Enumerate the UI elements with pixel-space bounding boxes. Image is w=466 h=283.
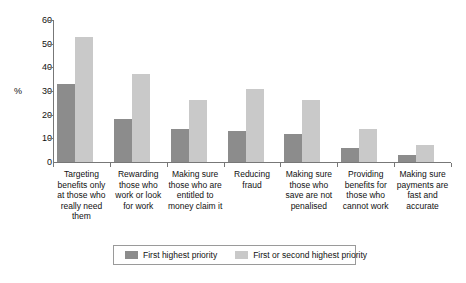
bar-group	[53, 20, 110, 162]
y-axis-tick-mark	[48, 44, 53, 45]
bar-0-3	[228, 131, 246, 162]
y-axis-title: %	[14, 86, 22, 96]
bar-1-2	[189, 100, 207, 162]
legend-swatch-0	[125, 251, 138, 259]
y-axis-tick-mark	[48, 138, 53, 139]
bar-group	[110, 20, 167, 162]
bar-0-5	[341, 148, 359, 162]
y-axis-tick-mark	[48, 115, 53, 116]
bar-0-0	[57, 84, 75, 162]
x-axis-tick-mark	[394, 163, 395, 167]
bar-1-0	[75, 37, 93, 162]
bar-1-5	[359, 129, 377, 162]
legend-label-1: First or second highest priority	[253, 250, 367, 260]
x-axis-category-labels: Targeting benefits only at those who rea…	[53, 169, 451, 235]
bar-0-2	[171, 129, 189, 162]
x-axis-label-5: Providing benefits for those who cannot …	[337, 169, 394, 211]
legend-item-1: First or second highest priority	[235, 250, 367, 260]
x-axis-tick-mark	[280, 163, 281, 167]
chart-legend: First highest priorityFirst or second hi…	[113, 245, 356, 265]
x-axis-label-0: Targeting benefits only at those who rea…	[53, 169, 110, 222]
y-axis-tick-mark	[48, 67, 53, 68]
legend-swatch-1	[235, 251, 248, 259]
bar-group	[394, 20, 451, 162]
y-axis-tick-label: 0	[47, 158, 52, 167]
bar-0-1	[114, 119, 132, 162]
bar-1-1	[132, 74, 150, 162]
x-axis-label-3: Reducing fraud	[224, 169, 281, 190]
bar-1-3	[246, 89, 264, 162]
x-axis-tick-mark	[337, 163, 338, 167]
x-axis-label-2: Making sure those who are entitled to mo…	[167, 169, 224, 211]
bars-container	[53, 20, 451, 162]
x-axis-tick-mark	[53, 163, 54, 167]
x-axis-tick-mark	[451, 163, 452, 167]
bar-1-6	[416, 145, 434, 162]
bar-group	[167, 20, 224, 162]
x-axis-tick-mark	[167, 163, 168, 167]
legend-item-0: First highest priority	[125, 250, 217, 260]
x-axis-label-6: Making sure payments are fast and accura…	[394, 169, 451, 211]
bar-group	[280, 20, 337, 162]
bar-1-4	[302, 100, 320, 162]
legend-label-0: First highest priority	[143, 250, 217, 260]
y-axis-tick-mark	[48, 20, 53, 21]
bar-group	[224, 20, 281, 162]
x-axis-line	[53, 162, 451, 163]
x-axis-label-1: Rewarding those who work or look for wor…	[110, 169, 167, 211]
bar-0-4	[284, 134, 302, 162]
x-axis-label-4: Making sure those who save are not penal…	[280, 169, 337, 211]
x-axis-tick-mark	[224, 163, 225, 167]
y-axis-tick-mark	[48, 91, 53, 92]
x-axis-tick-mark	[110, 163, 111, 167]
bar-group	[337, 20, 394, 162]
plot-area: % 0102030405060 Targeting benefits only …	[0, 0, 466, 240]
bar-0-6	[398, 155, 416, 162]
bar-chart: % 0102030405060 Targeting benefits only …	[0, 0, 466, 283]
